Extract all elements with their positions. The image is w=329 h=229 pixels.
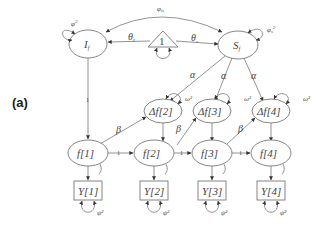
unit-label-2-3: 1 (180, 150, 183, 156)
f2-disturbance-hook (165, 164, 167, 174)
true-score-label-1: f[1] (77, 147, 94, 159)
intercept-mean-label: θI (128, 31, 135, 43)
observed-label-2: Y[2] (144, 185, 164, 197)
residual-label-3: ψ² (221, 209, 228, 217)
constant-label: 1 (159, 35, 165, 47)
latent-change-score-diagram: (a) φis If φ2 1 θI θs Sf φs2 α α (0, 0, 329, 229)
covariance-label: φis (157, 5, 164, 13)
residual-loop-3 (205, 201, 218, 212)
slope-mean-label: θs (191, 32, 198, 44)
true-score-label-2: f[2] (143, 147, 160, 159)
beta-label-2: β (115, 124, 121, 135)
observed-label-3: Y[3] (202, 185, 222, 197)
alpha-path-2 (170, 56, 225, 101)
alpha-label-2: α (190, 69, 196, 80)
f4-disturbance-hook (282, 164, 284, 174)
beta-label-4: β (237, 123, 243, 134)
change-variance-label-3: ω² (244, 95, 252, 103)
panel-label: (a) (12, 95, 28, 110)
change-variance-label-2: ω² (185, 95, 193, 103)
beta-path-2 (100, 117, 146, 144)
residual-label-1: ψ² (97, 209, 104, 217)
f3-disturbance-hook (223, 164, 225, 174)
true-score-label-3: f[3] (201, 147, 218, 159)
true-score-label-4: f[4] (260, 147, 277, 159)
change-variance-label-4: ω² (303, 95, 311, 103)
change-label-3: Δf[3] (197, 105, 222, 117)
slope-variance-label: φs2 (267, 25, 276, 34)
alpha-label-4: α (251, 70, 257, 81)
residual-label-2: ψ² (163, 209, 170, 217)
residual-loop-1 (81, 201, 94, 212)
change-label-4: Δf[4] (256, 105, 281, 117)
unit-label-1-2: 1 (117, 150, 120, 156)
change-label-2: Δf[2] (148, 105, 173, 117)
intercept-variance-label: φ2 (71, 19, 78, 28)
covariance-arc (106, 17, 222, 32)
constant-variance-loop (156, 48, 169, 59)
intercept-unit-label: 1 (86, 97, 89, 103)
residual-label-4: ψ² (280, 209, 287, 217)
path-diagram: φis If φ2 1 θI θs Sf φs2 α α α 1 Δf[2] (0, 0, 329, 229)
observed-label-1: Y[1] (78, 185, 98, 197)
unit-label-3-4: 1 (239, 150, 242, 156)
residual-loop-4 (264, 201, 277, 212)
beta-label-3: β (175, 123, 181, 134)
observed-label-4: Y[4] (261, 185, 281, 197)
f1-disturbance-hook (99, 164, 101, 174)
residual-loop-2 (147, 201, 160, 212)
alpha-label-3: α (221, 70, 227, 81)
